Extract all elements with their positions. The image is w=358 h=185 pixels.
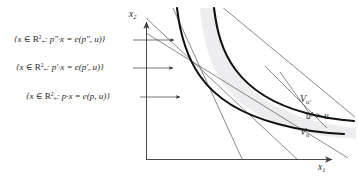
indifference-curve-v-u-prime xyxy=(214,8,354,121)
y-axis-label: x2 xyxy=(129,10,136,20)
set-label-hyperplane-p: {x ∈ R2+: p·x = e(p, u)} xyxy=(26,92,110,102)
curve-label-v-u-prime: Vu′ xyxy=(300,94,311,105)
budget-line-p xyxy=(146,33,348,158)
curve-label-v-u: Vu xyxy=(300,127,310,138)
budget-lines xyxy=(146,6,355,161)
inequality-annotation: u′ > u xyxy=(306,112,329,122)
leader-arrows xyxy=(133,40,180,97)
budget-line-p-prime xyxy=(146,18,299,161)
economics-figure: x2 x1 {x ∈ R2+: p″·x = e(p″, u)} {x ∈ R2… xyxy=(0,0,358,185)
set-label-hyperplane-p-prime: {x ∈ R2+: p′·x = e(p′, u)} xyxy=(16,63,104,73)
x-axis-label: x1 xyxy=(318,163,325,173)
set-label-hyperplane-p-double-prime: {x ∈ R2+: p″·x = e(p″, u)} xyxy=(14,35,105,45)
